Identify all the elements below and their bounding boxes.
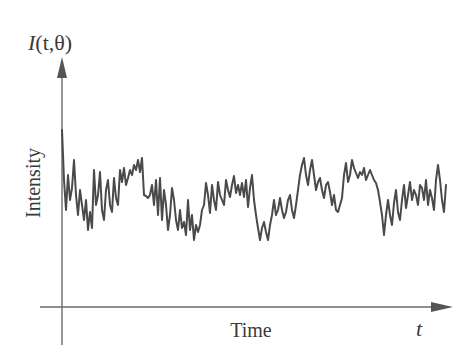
x-axis-symbol: t xyxy=(416,316,423,341)
y-symbol-args: (t,θ) xyxy=(35,30,72,55)
y-axis-label: Intensity xyxy=(22,148,45,218)
y-axis-arrow-icon xyxy=(57,57,67,78)
x-axis-arrow-icon xyxy=(431,302,453,312)
intensity-signal-line xyxy=(62,130,446,240)
x-axis-label: Time xyxy=(230,319,272,341)
y-axis-symbol: I(t,θ) xyxy=(27,30,72,55)
intensity-chart: I(t,θ) Intensity Time t xyxy=(0,0,475,364)
